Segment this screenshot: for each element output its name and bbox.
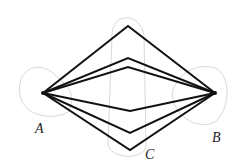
diagram-canvas: A B C	[0, 0, 240, 168]
point-b	[213, 91, 217, 95]
point-a	[41, 91, 45, 95]
label-b: B	[212, 130, 221, 145]
path-lower-3	[43, 93, 215, 150]
path-lower-1	[43, 93, 215, 111]
label-c: C	[145, 147, 155, 162]
label-a: A	[34, 121, 44, 136]
path-upper-2	[43, 58, 215, 93]
